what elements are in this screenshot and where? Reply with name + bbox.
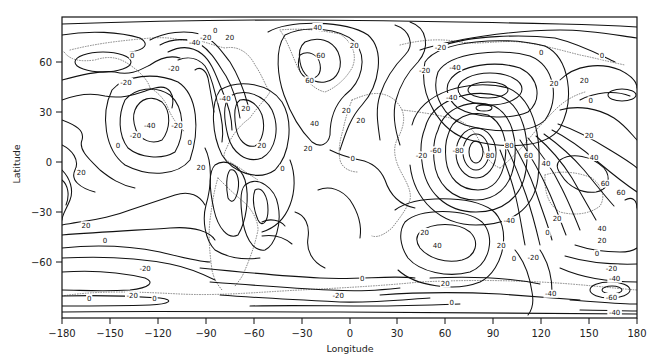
contour-label: -20 xyxy=(606,265,617,273)
x-tick-label: −180 xyxy=(48,328,75,339)
x-tick-label: 60 xyxy=(439,328,452,339)
x-tick-label: 120 xyxy=(531,328,550,339)
contour-label: -20 xyxy=(435,44,446,52)
x-tick-label: 30 xyxy=(391,328,404,339)
contour-label: -20 xyxy=(333,292,344,300)
contour-label: 0 xyxy=(188,139,192,147)
x-axis: −180 −150 −120 −90 −60 −30 0 30 60 90 12… xyxy=(48,318,646,354)
contour-label: 20 xyxy=(549,80,558,88)
contour-label: -40 xyxy=(449,64,460,72)
contour-label: 20 xyxy=(553,215,562,223)
contour-label: 60 xyxy=(316,52,325,60)
contour-label: 20 xyxy=(77,169,86,177)
contour-label: -60 xyxy=(606,294,617,302)
contour-label: 0 xyxy=(588,97,592,105)
contour-label: 20 xyxy=(197,164,206,172)
contour-label: 40 xyxy=(433,242,442,250)
contour-label: 20 xyxy=(441,280,450,288)
x-tick-label: 180 xyxy=(627,328,646,339)
contour-label: -20 xyxy=(171,122,182,130)
contour-label: 20 xyxy=(82,222,91,230)
x-tick-label: −30 xyxy=(291,328,312,339)
contour-label: 20 xyxy=(342,107,351,115)
y-axis: 60 30 0 −30 −60 Latitude xyxy=(11,57,62,268)
contour-label: 20 xyxy=(356,117,365,125)
contour-label: -80 xyxy=(452,147,463,155)
x-tick-label: 90 xyxy=(487,328,500,339)
contour-label: 40 xyxy=(313,24,322,32)
contour-label: -20 xyxy=(200,34,211,42)
x-tick-label: −60 xyxy=(243,328,264,339)
contour-label: -20 xyxy=(419,67,430,75)
contour-label: -20 xyxy=(139,265,150,273)
contour-label: 60 xyxy=(305,77,314,85)
x-tick-label: −150 xyxy=(96,328,123,339)
contour-label: 20 xyxy=(580,77,589,85)
contour-label: 80 xyxy=(486,152,495,160)
contour-label: -40 xyxy=(446,94,457,102)
contour-label: -20 xyxy=(168,65,179,73)
x-tick-label: 0 xyxy=(347,328,353,339)
contour-label: 0 xyxy=(350,155,354,163)
contour-label: -40 xyxy=(503,217,514,225)
y-tick-label: 0 xyxy=(46,157,52,168)
contour-label: 20 xyxy=(304,145,313,153)
contour-label: 0 xyxy=(213,27,217,35)
contour-label: 0 xyxy=(280,165,284,173)
contour-label: 0 xyxy=(512,255,516,263)
contour-label: 40 xyxy=(310,120,319,128)
contour-label: -60 xyxy=(430,147,441,155)
contour-label: -20 xyxy=(120,79,131,87)
contour-label: 0 xyxy=(360,275,364,283)
contour-label: 40 xyxy=(597,225,606,233)
contour-label: 40 xyxy=(589,154,598,162)
contour-label: 20 xyxy=(241,105,250,113)
contour-label: 20 xyxy=(585,132,594,140)
contour-label: -40 xyxy=(144,122,155,130)
x-axis-title: Longitude xyxy=(326,343,373,354)
y-tick-label: −60 xyxy=(31,257,52,268)
y-tick-label: 30 xyxy=(39,107,52,118)
contour-label: 0 xyxy=(545,229,549,237)
contour-label: 20 xyxy=(420,229,429,237)
contour-label: 20 xyxy=(350,42,359,50)
contour-label: 40 xyxy=(542,160,551,168)
contour-label: 80 xyxy=(505,142,514,150)
contour-label: -20 xyxy=(130,132,141,140)
contour-label: -40 xyxy=(219,95,230,103)
contour-label: 20 xyxy=(225,34,234,42)
contour-label: 0 xyxy=(103,237,107,245)
contour-label: 0 xyxy=(116,142,120,150)
contour-label: -20 xyxy=(527,254,538,262)
x-tick-label: −90 xyxy=(195,328,216,339)
contour-label: 0 xyxy=(595,250,599,258)
x-tick-label: −120 xyxy=(144,328,171,339)
y-axis-title: Latitude xyxy=(11,144,22,183)
contour-label: 20 xyxy=(257,142,266,150)
contour-label: -40 xyxy=(545,290,556,298)
contour-label: 0 xyxy=(87,295,91,303)
contour-label: 0 xyxy=(600,52,604,60)
contour-label: -40 xyxy=(609,309,620,317)
contour-label: 60 xyxy=(617,189,626,197)
contour-label: -40 xyxy=(609,275,620,283)
contour-label: 0 xyxy=(449,299,453,307)
x-tick-label: 150 xyxy=(579,328,598,339)
contour-label: 0 xyxy=(152,295,156,303)
contour-label: -20 xyxy=(416,152,427,160)
contour-label: 20 xyxy=(597,237,606,245)
contour-label: 0 xyxy=(539,49,543,57)
contour-label: 0 xyxy=(130,52,134,60)
contour-label: 60 xyxy=(601,180,610,188)
contour-label: -20 xyxy=(127,292,138,300)
contour-chart: 0-20-20-40-20020200-2000-40-20020-4020-2… xyxy=(0,0,655,357)
y-tick-label: −30 xyxy=(31,207,52,218)
contour-label: 60 xyxy=(524,152,533,160)
contour-label: 20 xyxy=(497,242,506,250)
y-tick-label: 60 xyxy=(39,57,52,68)
